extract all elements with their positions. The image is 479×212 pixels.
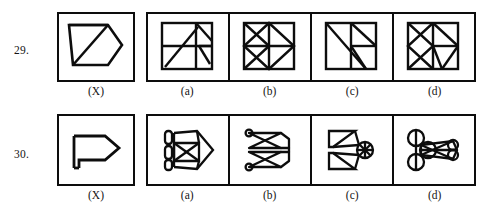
option-figure-30-a	[155, 121, 221, 179]
option-label-30-b: (b)	[229, 189, 312, 201]
question-row-29: 29. (X)	[0, 4, 479, 104]
option-label-30-d: (d)	[394, 189, 477, 201]
option-figure-30-c	[319, 121, 385, 179]
option-label-29-c: (c)	[311, 85, 394, 97]
option-figure-30-b	[237, 121, 303, 179]
options-strip-30	[146, 114, 476, 186]
option-figure-30-d	[401, 121, 467, 179]
problem-figure-panel-29	[57, 12, 135, 82]
problem-label-29: (X)	[57, 85, 135, 97]
option-label-29-b: (b)	[229, 85, 312, 97]
option-label-29-a: (a)	[146, 85, 229, 97]
question-row-30: 30. (X)	[0, 104, 479, 208]
puzzle-page: 29. (X)	[0, 0, 479, 212]
option-cell-30-b[interactable]	[230, 116, 312, 184]
option-cell-30-d[interactable]	[394, 116, 474, 184]
option-label-30-c: (c)	[311, 189, 394, 201]
problem-figure-30	[65, 124, 127, 176]
option-cell-29-c[interactable]	[312, 14, 394, 80]
option-cell-30-a[interactable]	[148, 116, 230, 184]
option-cell-29-d[interactable]	[394, 14, 474, 80]
problem-figure-panel-30	[57, 114, 135, 186]
question-number-30: 30.	[14, 148, 29, 160]
options-strip-29	[146, 12, 476, 82]
option-label-30-a: (a)	[146, 189, 229, 201]
option-figure-29-b	[240, 19, 300, 75]
option-labels-29: (a) (b) (c) (d)	[146, 85, 476, 97]
option-figure-29-a	[158, 19, 218, 75]
option-cell-30-c[interactable]	[312, 116, 394, 184]
problem-figure-29	[64, 19, 128, 75]
option-cell-29-b[interactable]	[230, 14, 312, 80]
question-number-29: 29.	[14, 44, 29, 56]
option-label-29-d: (d)	[394, 85, 477, 97]
option-cell-29-a[interactable]	[148, 14, 230, 80]
option-figure-29-d	[404, 19, 464, 75]
problem-label-30: (X)	[57, 189, 135, 201]
option-figure-29-c	[322, 19, 382, 75]
option-labels-30: (a) (b) (c) (d)	[146, 189, 476, 201]
